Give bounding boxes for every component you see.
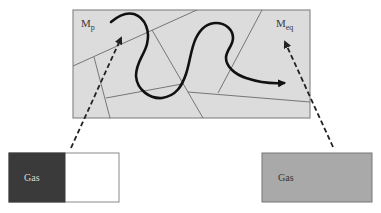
label-mp-main: M	[81, 17, 91, 29]
label-meq: Meq	[276, 18, 293, 32]
label-meq-main: M	[276, 17, 286, 29]
box-left-label: Gas	[24, 173, 40, 183]
label-mp: Mp	[81, 18, 95, 32]
label-mp-sub: p	[91, 23, 95, 32]
label-meq-sub: eq	[286, 23, 294, 32]
box-right-label: Gas	[278, 173, 294, 183]
diagram-canvas	[0, 0, 381, 213]
